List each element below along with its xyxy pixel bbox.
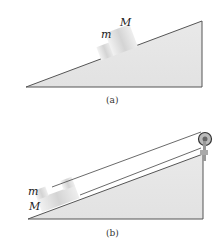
figure-b: m M (b)	[28, 132, 212, 238]
caption-a: (a)	[106, 95, 118, 105]
label-m-a: m	[101, 28, 111, 41]
label-M-a: M	[119, 16, 132, 29]
diagram-canvas: m M (a) m M (b)	[0, 0, 224, 249]
label-M-b: M	[28, 200, 41, 213]
label-m-b: m	[28, 185, 38, 198]
figure-a: m M (a)	[26, 16, 202, 105]
caption-b: (b)	[106, 228, 119, 238]
